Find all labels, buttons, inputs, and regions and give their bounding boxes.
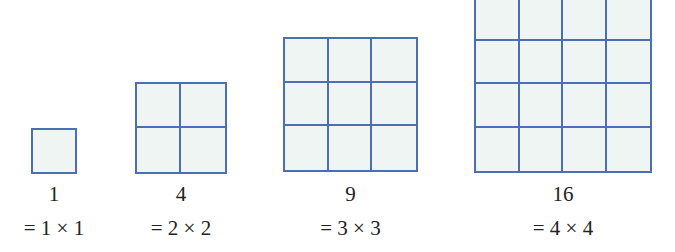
grid-cell (607, 128, 651, 172)
formula-label: = 3 × 3 (320, 218, 380, 239)
formula-label: = 1 × 1 (24, 218, 84, 239)
grid-cell (476, 0, 520, 41)
grid-cell (520, 84, 564, 128)
value-label: 9 (345, 184, 356, 205)
grid-cell (329, 83, 373, 127)
grid-cell (520, 128, 564, 172)
grid-cell (563, 128, 607, 172)
grid-2x2 (135, 82, 227, 174)
value-label: 4 (176, 184, 187, 205)
grid-cell (285, 39, 329, 83)
grid-cell (329, 126, 373, 170)
grid-cell (476, 84, 520, 128)
grid-cell (137, 128, 181, 172)
grid-3x3 (283, 37, 418, 172)
grid-cell (476, 41, 520, 85)
grid-cell (285, 126, 329, 170)
grid-cell (137, 84, 181, 128)
grid-1x1 (31, 128, 77, 174)
formula-label: = 2 × 2 (151, 218, 211, 239)
grid-cell (476, 128, 520, 172)
grid-cell (33, 130, 75, 172)
grid-cell (181, 84, 225, 128)
grid-cell (607, 41, 651, 85)
grid-cell (607, 84, 651, 128)
grid-cell (520, 0, 564, 41)
grid-cell (563, 41, 607, 85)
grid-cell (607, 0, 651, 41)
grid-cell (372, 126, 416, 170)
value-label: 1 (49, 184, 60, 205)
value-label: 16 (553, 184, 574, 205)
grid-cell (372, 83, 416, 127)
formula-label: = 4 × 4 (533, 218, 593, 239)
grid-4x4 (474, 0, 652, 173)
grid-cell (372, 39, 416, 83)
grid-cell (285, 83, 329, 127)
grid-cell (181, 128, 225, 172)
grid-cell (329, 39, 373, 83)
grid-cell (563, 84, 607, 128)
grid-cell (563, 0, 607, 41)
grid-cell (520, 41, 564, 85)
